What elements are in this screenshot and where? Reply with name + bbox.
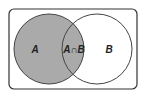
set-b-label: B <box>105 44 112 55</box>
venn-diagram: A A∩B B <box>0 0 145 97</box>
set-a-label: A <box>30 44 38 55</box>
intersection-label: A∩B <box>62 44 85 55</box>
